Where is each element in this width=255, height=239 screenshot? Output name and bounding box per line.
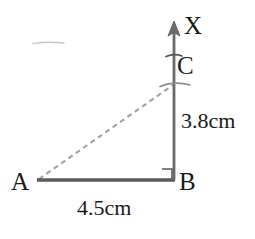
geometry-figure: X C A B 3.8cm 4.5cm [0,0,255,239]
label-point-x: X [184,13,202,38]
scan-artifact-mark [33,42,64,43]
right-angle-marker [162,169,172,179]
label-point-c: C [177,53,194,78]
hypotenuse-ac-dashed [39,85,173,179]
label-vertical-length: 3.8cm [181,110,235,132]
label-base-length: 4.5cm [77,197,131,219]
label-point-b: B [179,169,196,194]
label-point-a: A [11,169,29,194]
